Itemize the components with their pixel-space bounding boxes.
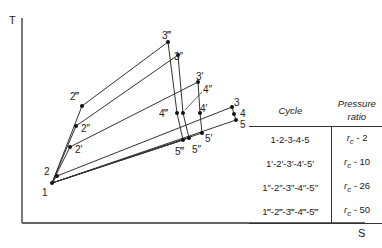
legend-cycle: 1-2-3-4-5 — [249, 127, 332, 152]
legend-ratio: rc - 10 — [332, 151, 382, 175]
t-axis-label: T — [9, 14, 16, 26]
cycle-points — [50, 40, 238, 185]
point-label-5p: 5′ — [205, 133, 213, 144]
point-label-2p: 2′ — [75, 144, 83, 155]
point-label-4ppp: 4‴ — [159, 108, 169, 119]
point-label-5ppp: 5‴ — [175, 146, 185, 157]
point-label-3pp: 3″ — [174, 51, 184, 62]
legend-row: 1″-2″-3″-4″-5″ rc - 26 — [249, 175, 382, 199]
point-label-1: 1 — [42, 187, 48, 198]
state-point-4pp — [181, 111, 185, 115]
header-ratio-line1: Pressure — [338, 98, 376, 109]
cycle-path-2 — [52, 55, 189, 183]
header-ratio-line2: ratio — [348, 111, 366, 122]
state-point-5ppp — [181, 138, 185, 142]
state-point-2ppp — [80, 104, 84, 108]
point-label-4: 4 — [240, 108, 246, 119]
ratio-value: - 50 — [351, 204, 370, 215]
header-pressure-ratio: Pressure ratio — [332, 96, 382, 127]
s-axis-label: S — [358, 227, 365, 239]
point-label-5: 5 — [240, 119, 246, 130]
cycle-legend-table: Cycle Pressure ratio 1-2-3-4-5 rc - 2 1′… — [249, 96, 382, 224]
state-point-4ppp — [175, 111, 179, 115]
cycle-lines — [52, 42, 236, 183]
point-label-4pp: 4″ — [203, 84, 213, 95]
point-label-2ppp: 2‴ — [70, 91, 80, 102]
point-label-4p: 4′ — [200, 103, 208, 114]
legend-ratio: rc - 2 — [332, 127, 382, 152]
point-label-3ppp: 3‴ — [162, 30, 172, 41]
state-point-1 — [50, 181, 54, 185]
legend-cycle: 1′-2′-3′-4′-5′ — [249, 151, 332, 175]
point-label-3p: 3′ — [196, 71, 204, 82]
legend-ratio: rc - 26 — [332, 175, 382, 199]
state-point-4 — [232, 112, 236, 116]
legend-row: 1‴-2‴-3‴-4‴-5‴ rc - 50 — [249, 199, 382, 224]
legend-cycle: 1″-2″-3″-4″-5″ — [249, 175, 332, 199]
legend-ratio: rc - 50 — [332, 199, 382, 224]
point-label-2: 2 — [44, 166, 50, 177]
ratio-value: - 2 — [354, 132, 368, 143]
legend-row: 1′-2′-3′-4′-5′ rc - 10 — [249, 151, 382, 175]
header-cycle: Cycle — [249, 96, 332, 127]
point-label-3: 3 — [234, 97, 240, 108]
state-point-5pp — [187, 136, 191, 140]
legend-row: 1-2-3-4-5 rc - 2 — [249, 127, 382, 152]
ratio-value: - 10 — [351, 156, 370, 167]
point-label-2pp: 2″ — [81, 123, 91, 134]
legend-cycle: 1‴-2‴-3‴-4‴-5‴ — [249, 199, 332, 224]
state-point-2pp — [74, 124, 78, 128]
state-point-5 — [234, 118, 238, 122]
state-point-2 — [55, 174, 59, 178]
state-point-5p — [200, 131, 204, 135]
ratio-value: - 26 — [351, 180, 370, 191]
point-label-5pp: 5″ — [192, 144, 202, 155]
state-point-2p — [68, 145, 72, 149]
